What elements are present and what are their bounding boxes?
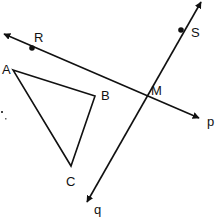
- geometry-diagram: R S M p q A B C: [0, 0, 223, 217]
- label-p: p: [207, 114, 214, 129]
- label-q: q: [94, 202, 101, 217]
- label-a: A: [2, 62, 11, 77]
- point-s: [178, 27, 184, 33]
- label-r: R: [34, 30, 43, 45]
- label-s: S: [191, 25, 200, 40]
- label-b: B: [101, 88, 110, 103]
- stray-mark: [1, 111, 3, 113]
- label-m: M: [151, 83, 162, 98]
- triangle-abc: [13, 70, 95, 166]
- point-r: [29, 45, 35, 51]
- label-c: C: [66, 174, 75, 189]
- stray-mark: [5, 118, 7, 120]
